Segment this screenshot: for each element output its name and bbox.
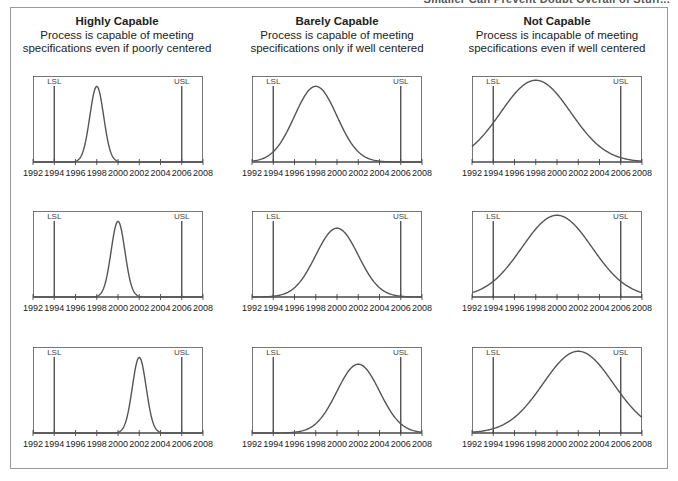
x-tick-label: 1994 bbox=[483, 303, 503, 313]
capability-chart-highly-capable-mean-1998: 199219941996199820002002200420062008LSLU… bbox=[33, 76, 203, 180]
lsl-label: LSL bbox=[486, 348, 501, 357]
column-subtitle-line1: Process is capable of meeting bbox=[227, 29, 447, 43]
x-tick-label: 2006 bbox=[391, 303, 411, 313]
x-tick-label: 2008 bbox=[632, 439, 652, 449]
column-subtitle-line1: Process is capable of meeting bbox=[7, 29, 227, 43]
x-tick-label: 2008 bbox=[193, 303, 213, 313]
x-tick-label: 2004 bbox=[369, 303, 389, 313]
x-tick-label: 2004 bbox=[589, 303, 609, 313]
capability-chart-barely-capable-mean-2002: 199219941996199820002002200420062008LSLU… bbox=[252, 347, 422, 451]
usl-label: USL bbox=[174, 77, 190, 86]
x-tick-label: 2004 bbox=[369, 439, 389, 449]
x-tick-label: 1994 bbox=[44, 439, 64, 449]
x-tick-label: 1992 bbox=[462, 439, 482, 449]
x-tick-label: 2004 bbox=[369, 168, 389, 178]
usl-label: USL bbox=[174, 212, 190, 221]
x-tick-label: 1998 bbox=[87, 303, 107, 313]
x-tick-label: 2006 bbox=[611, 168, 631, 178]
x-tick-label: 1992 bbox=[462, 303, 482, 313]
x-tick-label: 1996 bbox=[65, 168, 85, 178]
lsl-label: LSL bbox=[47, 77, 62, 86]
usl-label: USL bbox=[174, 348, 190, 357]
usl-label: USL bbox=[613, 77, 629, 86]
x-tick-label: 1994 bbox=[263, 303, 283, 313]
column-subtitle-line2: specifications even if well centered bbox=[447, 42, 667, 56]
x-tick-label: 1996 bbox=[284, 439, 304, 449]
x-tick-label: 1992 bbox=[23, 439, 43, 449]
x-tick-label: 2000 bbox=[547, 168, 567, 178]
x-tick-label: 2008 bbox=[412, 303, 432, 313]
capability-chart-highly-capable-mean-2002: 199219941996199820002002200420062008LSLU… bbox=[33, 347, 203, 451]
x-tick-label: 2002 bbox=[348, 168, 368, 178]
capability-chart-not-capable-mean-1998: 199219941996199820002002200420062008LSLU… bbox=[472, 76, 642, 180]
column-title: Barely Capable bbox=[227, 15, 447, 29]
lsl-label: LSL bbox=[47, 212, 62, 221]
column-subtitle-line1: Process is incapable of meeting bbox=[447, 29, 667, 43]
x-tick-label: 2006 bbox=[391, 168, 411, 178]
column-subtitle-line2: specifications only if well centered bbox=[227, 42, 447, 56]
x-tick-label: 2002 bbox=[568, 168, 588, 178]
lsl-label: LSL bbox=[266, 212, 281, 221]
x-tick-label: 2000 bbox=[327, 439, 347, 449]
x-tick-label: 1998 bbox=[306, 303, 326, 313]
x-tick-label: 1998 bbox=[306, 439, 326, 449]
x-tick-label: 1994 bbox=[483, 439, 503, 449]
x-tick-label: 2002 bbox=[568, 439, 588, 449]
x-tick-label: 2000 bbox=[108, 303, 128, 313]
x-tick-label: 2004 bbox=[150, 168, 170, 178]
capability-chart-highly-capable-mean-2000: 199219941996199820002002200420062008LSLU… bbox=[33, 211, 203, 315]
x-tick-label: 1992 bbox=[462, 168, 482, 178]
x-tick-label: 2008 bbox=[193, 168, 213, 178]
x-tick-label: 1994 bbox=[44, 168, 64, 178]
capability-chart-barely-capable-mean-2000: 199219941996199820002002200420062008LSLU… bbox=[252, 211, 422, 315]
plot-area bbox=[34, 348, 203, 434]
x-tick-label: 1996 bbox=[65, 303, 85, 313]
x-tick-label: 2002 bbox=[348, 439, 368, 449]
x-tick-label: 2006 bbox=[172, 303, 192, 313]
x-tick-label: 2004 bbox=[589, 439, 609, 449]
column-header-barely-capable: Barely Capable Process is capable of mee… bbox=[227, 15, 447, 56]
column-subtitle-line2: specifications even if poorly centered bbox=[7, 42, 227, 56]
x-tick-label: 2008 bbox=[193, 439, 213, 449]
x-tick-label: 2006 bbox=[611, 303, 631, 313]
x-tick-label: 2008 bbox=[632, 168, 652, 178]
plot-area bbox=[34, 212, 203, 298]
column-title: Highly Capable bbox=[7, 15, 227, 29]
x-tick-label: 2000 bbox=[547, 439, 567, 449]
x-tick-label: 2006 bbox=[611, 439, 631, 449]
lsl-label: LSL bbox=[266, 77, 281, 86]
capability-chart-not-capable-mean-2000: 199219941996199820002002200420062008LSLU… bbox=[472, 211, 642, 315]
lsl-label: LSL bbox=[486, 77, 501, 86]
column-header-not-capable: Not Capable Process is incapable of meet… bbox=[447, 15, 667, 56]
x-tick-label: 1998 bbox=[526, 303, 546, 313]
x-tick-label: 1992 bbox=[23, 168, 43, 178]
x-tick-label: 2008 bbox=[412, 168, 432, 178]
capability-chart-not-capable-mean-2002: 199219941996199820002002200420062008LSLU… bbox=[472, 347, 642, 451]
x-tick-label: 2002 bbox=[129, 168, 149, 178]
x-tick-label: 1998 bbox=[87, 439, 107, 449]
x-tick-label: 2004 bbox=[589, 168, 609, 178]
x-tick-label: 2004 bbox=[150, 439, 170, 449]
x-tick-label: 1998 bbox=[87, 168, 107, 178]
plot-area bbox=[473, 212, 642, 298]
x-tick-label: 1996 bbox=[284, 168, 304, 178]
x-tick-label: 2008 bbox=[412, 439, 432, 449]
x-tick-label: 1992 bbox=[242, 439, 262, 449]
usl-label: USL bbox=[613, 212, 629, 221]
x-tick-label: 1994 bbox=[483, 168, 503, 178]
plot-area bbox=[473, 348, 642, 434]
usl-label: USL bbox=[393, 212, 409, 221]
x-tick-label: 1994 bbox=[263, 168, 283, 178]
plot-area bbox=[253, 77, 422, 163]
x-tick-label: 2004 bbox=[150, 303, 170, 313]
x-tick-label: 1996 bbox=[504, 168, 524, 178]
x-tick-label: 2002 bbox=[348, 303, 368, 313]
x-tick-label: 2006 bbox=[391, 439, 411, 449]
lsl-label: LSL bbox=[266, 348, 281, 357]
x-tick-label: 1996 bbox=[65, 439, 85, 449]
x-tick-label: 2000 bbox=[547, 303, 567, 313]
clipped-caption: Smaller Can Prevent Doubt Overall of Stu… bbox=[424, 0, 670, 5]
lsl-label: LSL bbox=[47, 348, 62, 357]
x-tick-label: 1996 bbox=[504, 439, 524, 449]
x-tick-label: 1992 bbox=[242, 168, 262, 178]
